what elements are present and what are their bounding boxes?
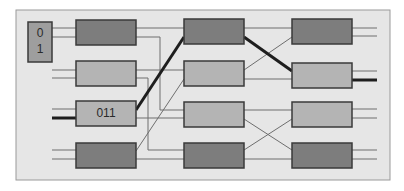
switch-box-s2-2 [184,61,244,86]
switch-box-s3-3 [292,102,352,127]
switch-box-s1-4 [76,143,136,168]
switch-box-s2-4 [184,143,244,168]
switch-box-s1-1 [76,20,136,45]
diagram-canvas [0,0,404,191]
switch-box-s1-2 [76,61,136,86]
switch-box-s3-1 [292,19,352,44]
switch-box-s2-1 [184,19,244,44]
switch-box-s2-3 [184,102,244,127]
switch-box-s3-2 [292,63,352,88]
switching-network-diagram: 0 1 011 [0,0,404,191]
switch-box-s3-4 [292,143,352,168]
switch-box-s1-3 [76,101,136,126]
address-register-box [28,22,52,62]
